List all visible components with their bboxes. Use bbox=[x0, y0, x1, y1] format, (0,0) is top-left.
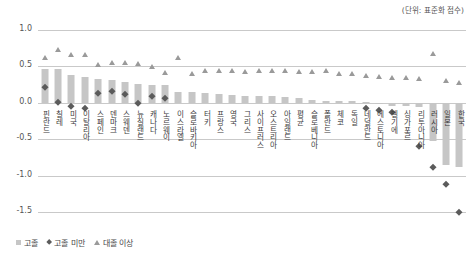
bar-high-school bbox=[349, 101, 356, 102]
unit-caption: (단위: 표준화 점수) bbox=[402, 4, 464, 15]
x-tick-label: 프랑스 bbox=[215, 110, 223, 133]
marker-tertiary-triangle bbox=[229, 68, 235, 73]
marker-tertiary-triangle bbox=[135, 61, 141, 66]
chart-legend: 고졸고졸 미만대졸 이상 bbox=[16, 237, 133, 248]
chart-root: (단위: 표준화 점수) 1.00.50.0-0.5-1.0-1.5 핀란드칠레… bbox=[0, 0, 472, 256]
bar-high-school bbox=[322, 101, 329, 103]
triangle-icon bbox=[94, 240, 100, 245]
x-tick-label: 아일랜드 bbox=[282, 110, 290, 141]
marker-tertiary-triangle bbox=[443, 78, 449, 83]
gridline bbox=[38, 212, 466, 213]
x-tick-label: 핀란드 bbox=[41, 110, 49, 133]
bar-high-school bbox=[389, 103, 396, 106]
x-tick-label: 일본 bbox=[442, 110, 450, 126]
bar-high-school bbox=[242, 96, 249, 103]
marker-tertiary-triangle bbox=[202, 68, 208, 73]
x-tick-label: 체코 bbox=[335, 110, 343, 126]
legend-item[interactable]: 대졸 이상 bbox=[94, 237, 134, 248]
legend-item[interactable]: 고졸 미만 bbox=[47, 237, 85, 248]
x-tick-label: 벨기에 bbox=[389, 110, 397, 133]
bar-high-school bbox=[81, 77, 88, 102]
x-tick-label: 슬로바키아 bbox=[188, 110, 196, 149]
marker-below-high-school-diamond bbox=[456, 209, 462, 215]
x-tick-label: 슬로베니아 bbox=[308, 110, 316, 149]
x-tick-label: 사이프러스 bbox=[255, 110, 263, 149]
marker-tertiary-triangle bbox=[82, 52, 88, 57]
marker-tertiary-triangle bbox=[189, 71, 195, 76]
legend-item[interactable]: 고졸 bbox=[16, 237, 38, 248]
marker-tertiary-triangle bbox=[216, 68, 222, 73]
marker-tertiary-triangle bbox=[309, 69, 315, 74]
x-tick-label: 터키 bbox=[201, 110, 209, 126]
marker-tertiary-triangle bbox=[376, 74, 382, 79]
marker-tertiary-triangle bbox=[456, 80, 462, 85]
x-tick-label: 평균 bbox=[295, 110, 303, 126]
y-tick-label: 0.5 bbox=[2, 61, 32, 69]
y-tick-label: 0.0 bbox=[2, 98, 32, 106]
x-tick-label: 덴마크 bbox=[108, 110, 116, 133]
marker-tertiary-triangle bbox=[149, 64, 155, 69]
bar-high-school bbox=[335, 101, 342, 102]
y-tick-label: 1.0 bbox=[2, 25, 32, 33]
marker-tertiary-triangle bbox=[403, 75, 409, 80]
marker-tertiary-triangle bbox=[68, 52, 74, 57]
marker-tertiary-triangle bbox=[269, 68, 275, 73]
x-tick-label: 이탈리아 bbox=[81, 110, 89, 141]
y-tick-label: -1.5 bbox=[2, 207, 32, 215]
bar-high-school bbox=[416, 103, 423, 107]
x-tick-label: 이스라엘 bbox=[175, 110, 183, 141]
bar-high-school bbox=[175, 92, 182, 103]
bar-high-school bbox=[228, 95, 235, 103]
bar-high-school bbox=[269, 96, 276, 103]
marker-tertiary-triangle bbox=[109, 60, 115, 65]
bar-high-school bbox=[376, 103, 383, 104]
legend-label: 고졸 bbox=[24, 237, 38, 248]
marker-tertiary-triangle bbox=[256, 68, 262, 73]
y-tick-label: -0.5 bbox=[2, 134, 32, 142]
x-tick-label: 스페인 bbox=[94, 110, 102, 133]
y-tick-label: -1.0 bbox=[2, 171, 32, 179]
x-tick-label: 캐나다 bbox=[148, 110, 156, 133]
x-tick-label: 러시아 bbox=[429, 110, 437, 133]
square-icon bbox=[16, 240, 21, 245]
bar-high-school bbox=[55, 69, 62, 102]
x-tick-label: 독일 bbox=[348, 110, 356, 126]
marker-tertiary-triangle bbox=[162, 70, 168, 75]
legend-label: 대졸 이상 bbox=[103, 237, 134, 248]
x-tick-label: 뉴질랜드 bbox=[134, 110, 142, 141]
bar-high-school bbox=[68, 75, 75, 103]
bar-high-school bbox=[362, 102, 369, 103]
x-tick-label: 오스트리아 bbox=[268, 110, 276, 149]
marker-below-high-school-diamond bbox=[429, 164, 435, 170]
marker-tertiary-triangle bbox=[55, 47, 61, 52]
marker-below-high-school-diamond bbox=[68, 103, 74, 109]
bar-high-school bbox=[255, 96, 262, 103]
marker-tertiary-triangle bbox=[349, 71, 355, 76]
bar-high-school bbox=[188, 92, 195, 103]
x-tick-label: 네덜란드 bbox=[362, 110, 370, 141]
x-tick-label: 폴란드 bbox=[322, 110, 330, 133]
x-tick-label: 리투아니아 bbox=[415, 110, 423, 149]
bar-high-school bbox=[202, 93, 209, 102]
marker-tertiary-triangle bbox=[296, 69, 302, 74]
marker-tertiary-triangle bbox=[363, 73, 369, 78]
marker-tertiary-triangle bbox=[282, 68, 288, 73]
marker-below-high-school-diamond bbox=[443, 181, 449, 187]
x-tick-label: 칠레 bbox=[54, 110, 62, 126]
marker-tertiary-triangle bbox=[416, 76, 422, 81]
x-tick-label: 그리스 bbox=[241, 110, 249, 133]
marker-tertiary-triangle bbox=[122, 60, 128, 65]
diamond-icon bbox=[46, 239, 52, 245]
bar-high-school bbox=[402, 103, 409, 107]
x-tick-label: 에스토니아 bbox=[375, 110, 383, 149]
x-tick-label: 노르웨이 bbox=[161, 110, 169, 141]
bar-high-school bbox=[282, 97, 289, 103]
marker-tertiary-triangle bbox=[430, 51, 436, 56]
marker-tertiary-triangle bbox=[323, 68, 329, 73]
x-tick-label: 스웨덴 bbox=[121, 110, 129, 133]
marker-tertiary-triangle bbox=[389, 75, 395, 80]
marker-tertiary-triangle bbox=[336, 71, 342, 76]
x-tick-label: 영국 bbox=[228, 110, 236, 126]
bar-high-school bbox=[215, 94, 222, 103]
marker-tertiary-triangle bbox=[242, 69, 248, 74]
